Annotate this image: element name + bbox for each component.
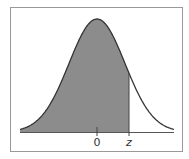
normal-distribution-diagram: 0 z	[0, 0, 189, 159]
tick-label-zero: 0	[94, 136, 101, 149]
tick-label-z: z	[125, 136, 132, 149]
